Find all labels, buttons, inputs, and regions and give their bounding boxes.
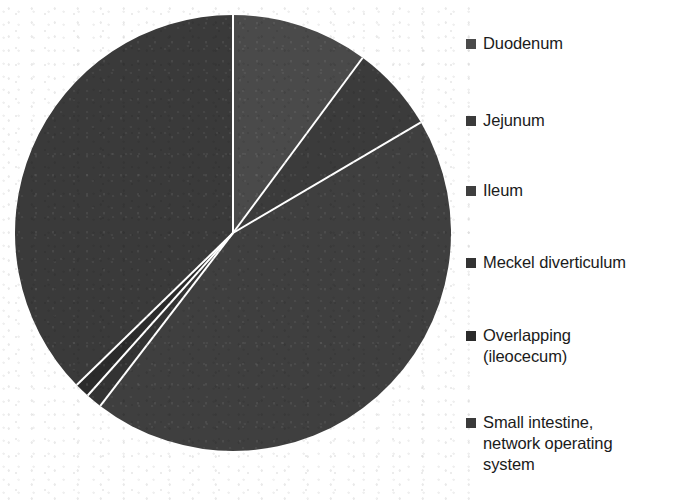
- chart-legend: DuodenumJejunumIleumMeckel diverticulumO…: [466, 0, 679, 503]
- legend-item[interactable]: Small intestine, network operating syste…: [466, 412, 612, 475]
- legend-item-label: Jejunum: [483, 110, 545, 131]
- legend-item-label: Meckel diverticulum: [483, 252, 626, 273]
- legend-swatch-icon: [466, 186, 476, 196]
- legend-swatch-icon: [466, 39, 476, 49]
- legend-item[interactable]: Overlapping (ileocecum): [466, 325, 571, 367]
- legend-item-label: Overlapping (ileocecum): [483, 325, 571, 367]
- legend-item-label: Small intestine, network operating syste…: [483, 412, 612, 475]
- pie-svg: [0, 0, 470, 503]
- legend-swatch-icon: [466, 258, 476, 268]
- legend-item-label: Ileum: [483, 180, 523, 201]
- legend-swatch-icon: [466, 418, 476, 428]
- legend-item[interactable]: Meckel diverticulum: [466, 252, 626, 273]
- legend-swatch-icon: [466, 116, 476, 126]
- legend-item-label: Duodenum: [483, 33, 563, 54]
- legend-swatch-icon: [466, 331, 476, 341]
- legend-item[interactable]: Ileum: [466, 180, 523, 201]
- pie-plot-area: [0, 0, 470, 503]
- pie-chart-figure: DuodenumJejunumIleumMeckel diverticulumO…: [0, 0, 679, 503]
- legend-item[interactable]: Jejunum: [466, 110, 545, 131]
- legend-item[interactable]: Duodenum: [466, 33, 563, 54]
